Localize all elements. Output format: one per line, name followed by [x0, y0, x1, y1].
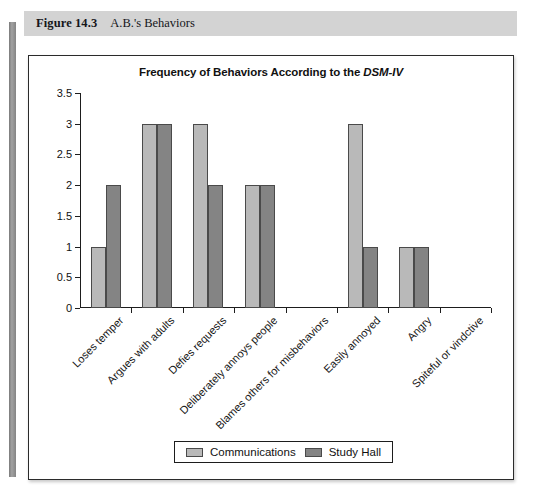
x-category-label: Easily annoyed: [321, 314, 382, 375]
plot-area: 00.511.522.533.5: [80, 93, 491, 308]
figure-number: Figure 14.3: [36, 16, 97, 31]
legend-swatch-study-hall: [305, 448, 322, 457]
legend-label-communications: Communications: [210, 446, 296, 458]
bar: [348, 124, 363, 308]
x-tick-mark: [234, 308, 235, 313]
bar: [414, 247, 429, 308]
bar-group: [131, 93, 182, 308]
chart-frame: Frequency of Behaviors According to the …: [28, 55, 514, 480]
x-tick-mark: [286, 308, 287, 313]
x-tick-mark: [337, 308, 338, 313]
y-tick-label: 1: [66, 241, 72, 253]
y-tick-label: 2.5: [57, 148, 72, 160]
bar-group: [234, 93, 285, 308]
x-category-label: Angry: [405, 314, 434, 343]
bar-group: [337, 93, 388, 308]
figure-caption-band: Figure 14.3 A.B.'s Behaviors: [24, 11, 517, 36]
x-category-label: Loses temper: [70, 314, 126, 370]
bar: [363, 247, 378, 308]
legend-swatch-communications: [186, 448, 203, 457]
bar: [245, 185, 260, 308]
page-edge-strip: [9, 22, 16, 477]
legend-item-study-hall: Study Hall: [305, 446, 381, 458]
y-tick-mark: [75, 308, 80, 309]
bar-group: [388, 93, 439, 308]
legend-label-study-hall: Study Hall: [329, 446, 381, 458]
y-tick-label: 3.5: [57, 87, 72, 99]
x-tick-mark: [440, 308, 441, 313]
x-tick-mark: [491, 308, 492, 313]
bar: [142, 124, 157, 308]
x-tick-mark: [183, 308, 184, 313]
x-tick-mark: [131, 308, 132, 313]
bar-group: [286, 93, 337, 308]
bar: [399, 247, 414, 308]
x-tick-mark: [388, 308, 389, 313]
chart-title: Frequency of Behaviors According to the …: [29, 66, 513, 78]
y-tick-label: 2: [66, 179, 72, 191]
y-tick-label: 0.5: [57, 271, 72, 283]
legend-item-communications: Communications: [186, 446, 296, 458]
bar: [157, 124, 172, 308]
bar-group: [80, 93, 131, 308]
bar: [193, 124, 208, 308]
bar: [91, 247, 106, 308]
y-tick-label: 1.5: [57, 210, 72, 222]
y-tick-label: 3: [66, 118, 72, 130]
x-category-label: Blames others for misbehaviors: [214, 314, 331, 431]
bar-group: [440, 93, 491, 308]
figure-caption-text: A.B.'s Behaviors: [110, 16, 195, 31]
bar: [208, 185, 223, 308]
chart-title-plain: Frequency of Behaviors According to the: [139, 66, 363, 78]
x-category-label: Deliberately annoys people: [177, 314, 279, 416]
bar: [260, 185, 275, 308]
bar-group: [183, 93, 234, 308]
bar: [106, 185, 121, 308]
y-tick-label: 0: [66, 302, 72, 314]
chart-title-italic: DSM-IV: [363, 66, 403, 78]
chart-legend: Communications Study Hall: [174, 441, 393, 463]
